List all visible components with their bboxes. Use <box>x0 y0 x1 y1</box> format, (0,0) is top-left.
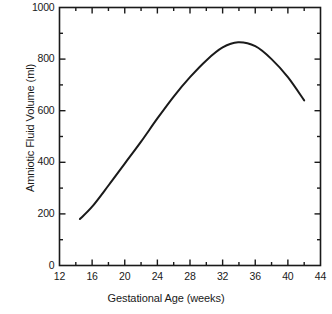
y-tick-label: 400 <box>38 155 55 167</box>
data-series-line <box>80 42 304 219</box>
chart-figure: 02004006008001000 121620242832364044 Amn… <box>0 0 332 314</box>
y-axis-title: Amniotic Fluid Volume (ml) <box>24 28 36 228</box>
y-tick-label: 200 <box>38 207 55 219</box>
y-tick-label: 600 <box>38 104 55 116</box>
x-tick-label: 44 <box>301 270 332 282</box>
y-tick-label: 800 <box>38 52 55 64</box>
y-tick-label: 1000 <box>32 1 55 13</box>
y-axis-ticks <box>60 33 321 239</box>
x-axis-ticks <box>76 8 304 266</box>
x-axis-title: Gestational Age (weeks) <box>0 292 332 304</box>
axis-frame <box>60 8 321 266</box>
